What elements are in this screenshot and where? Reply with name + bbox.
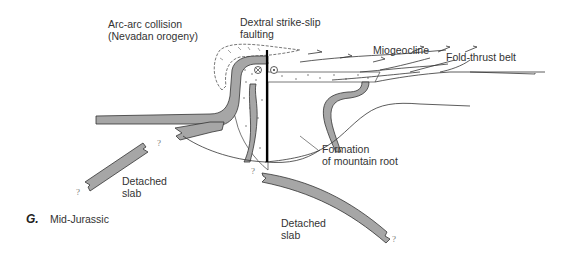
mountain-root-outline-right — [265, 150, 320, 162]
question-mark-4: ? — [392, 234, 396, 244]
label-arc-collision: Arc-arc collision (Nevadan orogeny) — [108, 18, 198, 42]
label-dextral-faulting: Dextral strike-slip faulting — [240, 16, 321, 40]
label-dextral-line1: Dextral strike-slip — [240, 16, 321, 28]
slab-lower-branch — [175, 122, 224, 140]
label-mountain-root: Formation of mountain root — [322, 143, 398, 167]
figure-letter: G. — [26, 212, 39, 226]
label-detached-slab-right-line1: Detached — [281, 217, 326, 229]
fault-motion-out-of-page-icon — [271, 67, 278, 74]
figure-caption: Mid-Jurassic — [50, 213, 109, 225]
label-detached-slab-left-line1: Detached — [122, 175, 167, 187]
label-fold-thrust-belt: Fold-thrust belt — [446, 51, 516, 63]
question-mark-2: ? — [76, 187, 80, 197]
label-detached-slab-right-line2: slab — [281, 229, 326, 241]
label-arc-collision-line1: Arc-arc collision — [108, 18, 198, 30]
mountain-root-leader — [300, 136, 318, 150]
fault-motion-into-page-icon — [255, 67, 262, 74]
label-mountain-root-line2: of mountain root — [322, 155, 398, 167]
label-miogeocline: Miogeocline — [373, 44, 429, 56]
label-detached-slab-left: Detached slab — [122, 175, 167, 199]
label-detached-slab-left-line2: slab — [122, 187, 167, 199]
label-detached-slab-right: Detached slab — [281, 217, 326, 241]
label-mountain-root-line1: Formation — [322, 143, 398, 155]
question-mark-3: ? — [251, 166, 255, 176]
question-mark-1: ? — [157, 138, 161, 148]
label-dextral-line2: faulting — [240, 28, 321, 40]
label-arc-collision-line2: (Nevadan orogeny) — [108, 30, 198, 42]
